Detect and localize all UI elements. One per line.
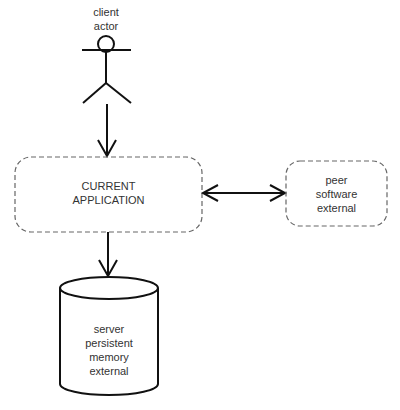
peer-label-line: external bbox=[286, 201, 387, 215]
server-label: server persistent memory external bbox=[60, 322, 158, 378]
peer-label-line: peer bbox=[286, 173, 387, 187]
server-label-line: external bbox=[60, 364, 158, 378]
peer-software-label: peer software external bbox=[286, 173, 387, 215]
actor-right-leg bbox=[106, 83, 131, 103]
server-label-line: memory bbox=[60, 350, 158, 364]
actor-figure bbox=[82, 36, 131, 103]
server-label-line: persistent bbox=[60, 336, 158, 350]
actor-label-line: client bbox=[76, 5, 136, 19]
arrow-actor-to-app bbox=[98, 104, 116, 156]
peer-label-line: software bbox=[286, 187, 387, 201]
current-app-label-line: CURRENT bbox=[15, 179, 202, 193]
arrow-app-peer bbox=[203, 185, 285, 201]
server-label-line: server bbox=[60, 322, 158, 336]
actor-label: client actor bbox=[76, 5, 136, 33]
actor-label-line: actor bbox=[76, 19, 136, 33]
actor-left-leg bbox=[83, 83, 106, 103]
arrow-app-to-server bbox=[99, 232, 117, 276]
current-app-label-line: APPLICATION bbox=[15, 193, 202, 207]
current-application-label: CURRENT APPLICATION bbox=[15, 179, 202, 207]
